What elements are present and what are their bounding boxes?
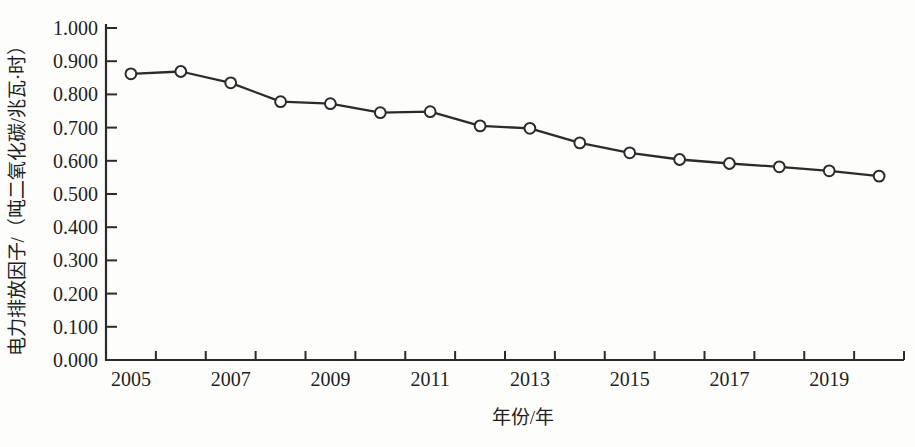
y-tick-label: 0.500 [53,183,98,205]
emission-factor-line-chart: 0.0000.1000.2000.3000.4000.5000.6000.700… [0,0,915,447]
data-point-2006 [175,66,186,77]
y-tick-label: 0.000 [53,349,98,371]
data-point-2007 [225,77,236,88]
chart-canvas: 0.0000.1000.2000.3000.4000.5000.6000.700… [0,0,915,447]
x-axis-ticks [106,351,904,360]
x-tick-label: 2013 [510,368,550,390]
data-point-2015 [624,147,635,158]
y-axis-ticks [106,28,117,360]
y-axis-tick-labels: 0.0000.1000.2000.3000.4000.5000.6000.700… [53,17,98,371]
y-tick-label: 0.800 [53,83,98,105]
data-point-2018 [774,161,785,172]
data-point-2020 [874,171,885,182]
y-tick-label: 0.300 [53,249,98,271]
data-point-2014 [574,138,585,149]
y-tick-label: 0.900 [53,50,98,72]
y-tick-label: 0.100 [53,316,98,338]
x-tick-label: 2015 [610,368,650,390]
data-point-2010 [375,107,386,118]
y-tick-label: 0.400 [53,216,98,238]
x-tick-label: 2009 [310,368,350,390]
data-series [125,66,884,181]
data-point-2012 [475,121,486,132]
data-point-2013 [525,123,536,134]
y-tick-label: 1.000 [53,17,98,39]
y-tick-label: 0.600 [53,150,98,172]
x-tick-label: 2011 [411,368,450,390]
data-point-2009 [325,98,336,109]
data-point-2011 [425,106,436,117]
x-axis-title: 年份/年 [492,407,554,428]
axes [105,24,904,360]
data-point-2016 [674,154,685,165]
data-point-2008 [275,96,286,107]
data-point-2019 [824,165,835,176]
x-tick-label: 2017 [709,368,749,390]
data-point-2017 [724,158,735,169]
y-axis-title: 电力排放因子/（吨二氧化碳/兆瓦·时） [7,36,28,357]
data-point-2005 [125,68,136,79]
x-tick-label: 2005 [111,368,151,390]
y-tick-label: 0.700 [53,117,98,139]
y-tick-label: 0.200 [53,283,98,305]
x-tick-label: 2019 [809,368,849,390]
x-axis-tick-labels: 20052007200920112013201520172019 [111,368,849,390]
x-tick-label: 2007 [211,368,251,390]
data-line [131,72,879,177]
